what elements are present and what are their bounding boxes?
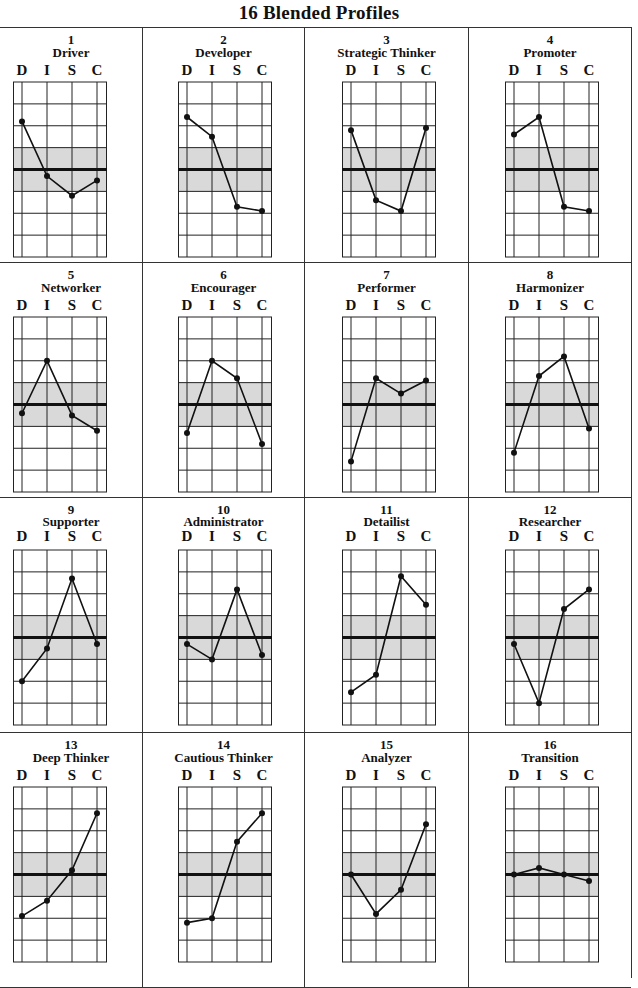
profile-name: Supporter <box>0 515 142 528</box>
profile-cell-9: 9SupporterDISC <box>0 498 143 733</box>
axis-label-i: I <box>532 63 546 78</box>
axis-label-s: S <box>394 768 408 783</box>
data-point <box>184 920 190 926</box>
axis-label-s: S <box>557 63 571 78</box>
profile-name: Detailist <box>305 515 468 528</box>
data-point <box>19 118 25 124</box>
profile-name: Performer <box>305 281 468 294</box>
disc-line-chart <box>342 82 436 257</box>
axis-label-d: D <box>344 768 358 783</box>
data-point <box>259 441 265 447</box>
axis-label-i: I <box>205 298 219 313</box>
axis-label-c: C <box>582 63 596 78</box>
profile-name: Analyzer <box>305 751 468 764</box>
profile-name: Cautious Thinker <box>143 751 304 764</box>
axis-label-s: S <box>394 63 408 78</box>
data-point <box>373 197 379 203</box>
data-point <box>259 652 265 658</box>
profile-cell-5: 5NetworkerDISC <box>0 263 143 498</box>
axis-label-d: D <box>180 768 194 783</box>
axis-label-c: C <box>90 529 104 544</box>
axis-label-c: C <box>582 529 596 544</box>
axis-label-i: I <box>369 768 383 783</box>
data-point <box>423 602 429 608</box>
profile-name: Researcher <box>469 515 631 528</box>
axis-label-c: C <box>419 529 433 544</box>
data-point <box>561 353 567 359</box>
axis-label-c: C <box>419 768 433 783</box>
disc-line-chart <box>178 787 272 962</box>
disc-line-chart <box>13 82 107 257</box>
data-point <box>561 872 567 878</box>
data-point <box>44 898 50 904</box>
data-point <box>234 204 240 210</box>
data-point <box>69 575 75 581</box>
data-point <box>373 672 379 678</box>
profile-cell-15: 15AnalyzerDISC <box>305 733 469 988</box>
data-point <box>234 375 240 381</box>
axis-label-d: D <box>15 529 29 544</box>
axis-label-s: S <box>65 529 79 544</box>
axis-label-d: D <box>180 529 194 544</box>
data-point <box>561 606 567 612</box>
data-point <box>209 915 215 921</box>
profile-name: Developer <box>143 46 304 59</box>
data-point <box>184 641 190 647</box>
axis-label-d: D <box>15 768 29 783</box>
profile-name: Strategic Thinker <box>305 46 468 59</box>
axis-label-c: C <box>255 768 269 783</box>
axis-label-d: D <box>15 298 29 313</box>
axis-label-d: D <box>180 63 194 78</box>
disc-line-chart <box>342 550 436 725</box>
profile-name: Networker <box>0 281 142 294</box>
axis-label-c: C <box>90 63 104 78</box>
data-point <box>94 428 100 434</box>
axis-label-s: S <box>65 63 79 78</box>
page-title: 16 Blended Profiles <box>0 2 638 24</box>
profiles-table: 1DriverDISC2DeveloperDISC3Strategic Thin… <box>0 27 632 978</box>
data-point <box>259 208 265 214</box>
data-point <box>398 391 404 397</box>
data-point <box>348 872 354 878</box>
profile-cell-14: 14Cautious ThinkerDISC <box>143 733 305 988</box>
axis-label-s: S <box>230 63 244 78</box>
disc-line-chart <box>178 550 272 725</box>
disc-line-chart <box>505 787 599 962</box>
profile-name: Deep Thinker <box>0 751 142 764</box>
data-point <box>94 810 100 816</box>
profile-cell-12: 12ResearcherDISC <box>469 498 631 733</box>
profile-cell-7: 7PerformerDISC <box>305 263 469 498</box>
data-point <box>44 645 50 651</box>
axis-label-i: I <box>369 529 383 544</box>
data-point <box>69 867 75 873</box>
data-point <box>373 911 379 917</box>
data-point <box>184 430 190 436</box>
data-point <box>511 872 517 878</box>
axis-label-c: C <box>255 529 269 544</box>
data-point <box>536 700 542 706</box>
profile-cell-11: 11DetailistDISC <box>305 498 469 733</box>
data-point <box>536 114 542 120</box>
axis-label-i: I <box>205 63 219 78</box>
disc-line-chart <box>13 317 107 492</box>
disc-line-chart <box>505 317 599 492</box>
profile-cell-10: 10AdministratorDISC <box>143 498 305 733</box>
data-point <box>398 208 404 214</box>
axis-label-d: D <box>507 298 521 313</box>
axis-label-s: S <box>230 768 244 783</box>
axis-label-d: D <box>344 529 358 544</box>
data-point <box>423 377 429 383</box>
profile-cell-1: 1DriverDISC <box>0 28 143 263</box>
data-point <box>44 173 50 179</box>
axis-label-i: I <box>205 529 219 544</box>
data-point <box>69 193 75 199</box>
data-point <box>586 426 592 432</box>
axis-label-s: S <box>230 529 244 544</box>
axis-label-c: C <box>90 298 104 313</box>
axis-label-c: C <box>255 63 269 78</box>
data-point <box>373 375 379 381</box>
profile-name: Driver <box>0 46 142 59</box>
data-point <box>586 878 592 884</box>
axis-label-s: S <box>230 298 244 313</box>
disc-line-chart <box>505 82 599 257</box>
